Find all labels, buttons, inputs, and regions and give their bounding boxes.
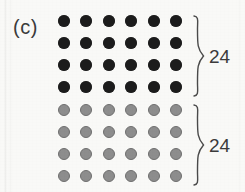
dot-dark-group-r4-c4 xyxy=(125,81,137,93)
dot-gray-group-r1-c1 xyxy=(58,104,70,116)
dot-dark-group-r4-c5 xyxy=(148,81,160,93)
dot-dark-group-r1-c3 xyxy=(103,15,115,27)
dot-gray-group-r2-c2 xyxy=(80,126,92,138)
dot-gray-group-r4-c1 xyxy=(58,170,70,182)
dot-dark-group-r1-c1 xyxy=(58,15,70,27)
dot-gray-group-r4-c4 xyxy=(125,170,137,182)
dot-dark-group-r2-c4 xyxy=(125,37,137,49)
dot-gray-group-r2-c1 xyxy=(58,126,70,138)
dot-gray-group-r3-c1 xyxy=(58,148,70,160)
dot-gray-group-r4-c5 xyxy=(148,170,160,182)
dot-gray-group-r1-c6 xyxy=(170,104,182,116)
dot-gray-group-r1-c3 xyxy=(103,104,115,116)
dot-gray-group-r1-c4 xyxy=(125,104,137,116)
dot-dark-group-r3-c5 xyxy=(148,59,160,71)
dot-dark-group-r2-c6 xyxy=(170,37,182,49)
dot-dark-group-r1-c2 xyxy=(80,15,92,27)
dot-dark-group-r2-c3 xyxy=(103,37,115,49)
scan-artifact-right xyxy=(238,0,241,192)
dot-gray-group-r2-c6 xyxy=(170,126,182,138)
dot-gray-group-r3-c4 xyxy=(125,148,137,160)
scan-artifact-left-secondary xyxy=(9,0,12,192)
figure-panel: (c) 24 24 xyxy=(0,0,245,192)
brace-gray-group xyxy=(192,104,205,186)
dot-gray-group-r3-c6 xyxy=(170,148,182,160)
dot-gray-group-r2-c3 xyxy=(103,126,115,138)
dot-dark-group-r1-c5 xyxy=(148,15,160,27)
panel-label: (c) xyxy=(13,17,38,37)
brace-dark-group xyxy=(192,15,205,97)
dot-gray-group-r4-c3 xyxy=(103,170,115,182)
dot-dark-group-r2-c5 xyxy=(148,37,160,49)
brace-gray-group-icon xyxy=(192,104,205,186)
brace-dark-group-icon xyxy=(192,15,205,97)
dot-gray-group-r3-c3 xyxy=(103,148,115,160)
dot-dark-group-r3-c1 xyxy=(58,59,70,71)
dot-dark-group-r4-c2 xyxy=(80,81,92,93)
scan-artifact-left xyxy=(4,0,7,192)
dot-gray-group-r4-c2 xyxy=(80,170,92,182)
dot-gray-group-r2-c5 xyxy=(148,126,160,138)
dot-dark-group-r3-c4 xyxy=(125,59,137,71)
dot-dark-group-r3-c3 xyxy=(103,59,115,71)
dot-gray-group-r3-c5 xyxy=(148,148,160,160)
dot-dark-group-r2-c1 xyxy=(58,37,70,49)
dot-dark-group-r3-c2 xyxy=(80,59,92,71)
dot-gray-group-r2-c4 xyxy=(125,126,137,138)
dot-gray-group-r3-c2 xyxy=(80,148,92,160)
dot-dark-group-r4-c1 xyxy=(58,81,70,93)
dot-dark-group-r2-c2 xyxy=(80,37,92,49)
dot-dark-group-r4-c3 xyxy=(103,81,115,93)
dot-dark-group-r1-c6 xyxy=(170,15,182,27)
gray-group-count: 24 xyxy=(209,136,230,155)
dot-gray-group-r1-c2 xyxy=(80,104,92,116)
dot-dark-group-r3-c6 xyxy=(170,59,182,71)
dot-gray-group-r1-c5 xyxy=(148,104,160,116)
dot-gray-group-r4-c6 xyxy=(170,170,182,182)
dot-dark-group-r4-c6 xyxy=(170,81,182,93)
dark-group-count: 24 xyxy=(209,47,230,66)
dot-dark-group-r1-c4 xyxy=(125,15,137,27)
